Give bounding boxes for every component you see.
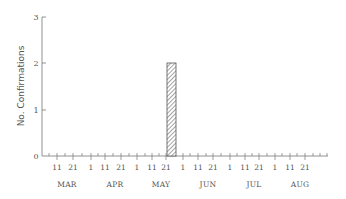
y-tick-label: 1 xyxy=(33,106,38,115)
x-tick-label: 1 xyxy=(135,163,140,172)
x-tick-label: 1 xyxy=(228,163,233,172)
y-axis-title: No. Confirmations xyxy=(16,45,26,126)
x-tick-label: 11 xyxy=(100,163,110,172)
x-tick-label: 11 xyxy=(193,163,203,172)
y-axis: 3 2 1 0 xyxy=(33,13,46,161)
month-label: JUL xyxy=(245,180,261,189)
y-tick-label: 3 xyxy=(33,13,38,22)
x-tick-label: 11 xyxy=(240,163,250,172)
x-tick-label: 21 xyxy=(68,163,78,172)
x-axis: 11 21 1 11 21 1 11 21 1 11 21 1 11 21 1 … xyxy=(42,153,328,189)
month-label: AUG xyxy=(290,180,310,189)
x-tick-label: 11 xyxy=(285,163,295,172)
x-tick-label: 21 xyxy=(161,163,171,172)
month-label: MAR xyxy=(57,180,77,189)
month-label: MAY xyxy=(152,180,171,189)
x-tick-label: 1 xyxy=(273,163,278,172)
x-tick-label: 21 xyxy=(300,163,310,172)
x-tick-label: 11 xyxy=(147,163,157,172)
x-tick-label: 21 xyxy=(116,163,126,172)
bar-may-21 xyxy=(167,63,176,156)
y-tick-label: 2 xyxy=(33,59,38,68)
x-tick-label: 1 xyxy=(89,163,94,172)
chart: No. Confirmations 3 2 1 0 xyxy=(0,0,346,199)
y-tick-label: 0 xyxy=(33,152,38,161)
x-tick-label: 11 xyxy=(52,163,62,172)
x-tick-label: 21 xyxy=(208,163,218,172)
x-tick-label: 1 xyxy=(181,163,186,172)
x-tick-label: 21 xyxy=(254,163,264,172)
month-label: JUN xyxy=(199,180,217,189)
month-label: APR xyxy=(105,180,123,189)
